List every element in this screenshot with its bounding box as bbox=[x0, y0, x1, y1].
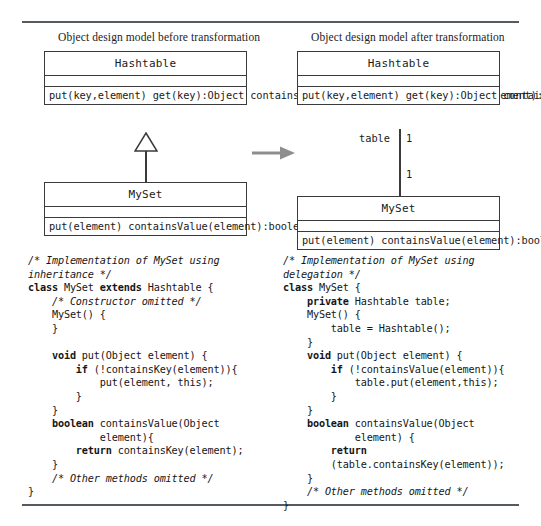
class-box-hashtable-before: Hashtable put(key,element) get(key):Obje… bbox=[44, 51, 247, 105]
code-token: MySet() { bbox=[28, 309, 106, 320]
code-token: } bbox=[283, 405, 313, 416]
code-token: containsValue(Object bbox=[355, 418, 475, 429]
code-token: } bbox=[28, 323, 58, 334]
code-token: table.put(element,this); bbox=[283, 377, 498, 388]
code-line: /* Implementation of MySet using bbox=[283, 254, 504, 268]
code-token: return bbox=[28, 445, 118, 456]
code-line: } bbox=[283, 390, 504, 404]
code-line: inheritance */ bbox=[28, 268, 243, 282]
code-token: class bbox=[28, 282, 64, 293]
code-token: if bbox=[283, 364, 349, 375]
code-line: void put(Object element) { bbox=[283, 349, 504, 363]
code-token: Hashtable table; bbox=[355, 296, 451, 307]
code-token: } bbox=[28, 486, 34, 497]
generalization-line bbox=[145, 151, 147, 182]
code-token: boolean bbox=[28, 418, 100, 429]
code-line: } bbox=[28, 390, 243, 404]
code-token: /* Implementation of MySet using bbox=[28, 255, 219, 266]
code-line: /* Constructor omitted */ bbox=[28, 295, 243, 309]
association-multiplicity-bottom: 1 bbox=[406, 168, 412, 180]
code-line: /* Implementation of MySet using bbox=[28, 254, 243, 268]
class-attributes-myset-before bbox=[45, 207, 246, 218]
code-token: extends bbox=[100, 282, 148, 293]
generalization-triangle-icon bbox=[134, 132, 158, 152]
association-line bbox=[399, 129, 401, 196]
code-token: /* Constructor omitted */ bbox=[28, 296, 202, 307]
code-line: put(element, this); bbox=[28, 376, 243, 390]
code-token: put(Object element) { bbox=[337, 350, 463, 361]
code-token: class bbox=[283, 282, 319, 293]
code-token: } bbox=[283, 500, 289, 511]
class-name-hashtable-after: Hashtable bbox=[298, 52, 499, 76]
code-line: if (!containsKey(element)){ bbox=[28, 363, 243, 377]
code-token: /* Other methods omitted */ bbox=[28, 473, 214, 484]
code-line: /* Other methods omitted */ bbox=[28, 472, 243, 486]
code-token bbox=[28, 337, 34, 348]
code-listing-inheritance: /* Implementation of MySet usinginherita… bbox=[28, 254, 243, 499]
code-line: boolean containsValue(Object bbox=[28, 417, 243, 431]
class-box-myset-before: MySet put(element) containsValue(element… bbox=[44, 182, 247, 236]
code-line: element){ bbox=[28, 431, 243, 445]
class-box-hashtable-after: Hashtable put(key,element) get(key):Obje… bbox=[297, 51, 500, 105]
code-line: } bbox=[28, 485, 243, 499]
code-token: inheritance */ bbox=[28, 269, 112, 280]
code-token: } bbox=[28, 405, 58, 416]
transformation-arrow-icon bbox=[252, 145, 296, 161]
association-role-label: table bbox=[359, 132, 390, 144]
class-attributes-hashtable-before bbox=[45, 76, 246, 87]
code-line: } bbox=[283, 472, 504, 486]
code-line: } bbox=[28, 404, 243, 418]
code-line: } bbox=[283, 336, 504, 350]
code-line: } bbox=[28, 322, 243, 336]
code-token: } bbox=[283, 391, 337, 402]
caption-before-transformation: Object design model before transformatio… bbox=[58, 31, 260, 43]
class-attributes-hashtable-after bbox=[298, 76, 499, 87]
caption-after-transformation: Object design model after transformation bbox=[311, 31, 505, 43]
code-token: } bbox=[28, 391, 82, 402]
code-line: class MySet extends Hashtable { bbox=[28, 281, 243, 295]
code-line bbox=[28, 336, 243, 350]
code-token: delegation */ bbox=[283, 269, 361, 280]
code-token: if bbox=[28, 364, 94, 375]
code-line: /* Other methods omitted */ bbox=[283, 485, 504, 499]
code-token: (table.containsKey(element)); bbox=[283, 459, 504, 470]
code-token: Hashtable { bbox=[148, 282, 214, 293]
code-token: } bbox=[28, 459, 58, 470]
code-token: MySet() { bbox=[283, 309, 361, 320]
class-box-myset-after: MySet put(element) containsValue(element… bbox=[297, 196, 500, 250]
code-line: return bbox=[283, 444, 504, 458]
code-token: void bbox=[283, 350, 337, 361]
code-line: class MySet { bbox=[283, 281, 504, 295]
class-operations-hashtable-before: put(key,element) get(key):Object contain… bbox=[45, 87, 246, 104]
association-multiplicity-top: 1 bbox=[406, 132, 412, 144]
code-token: (!containsKey(element)){ bbox=[94, 364, 238, 375]
code-token: containsValue(Object bbox=[100, 418, 220, 429]
code-token: } bbox=[283, 473, 313, 484]
code-line: table = Hashtable(); bbox=[283, 322, 504, 336]
code-line: (table.containsKey(element)); bbox=[283, 458, 504, 472]
code-line: table.put(element,this); bbox=[283, 376, 504, 390]
code-line: } bbox=[28, 458, 243, 472]
code-listing-delegation: /* Implementation of MySet usingdelegati… bbox=[283, 254, 504, 512]
code-token: /* Implementation of MySet using bbox=[283, 255, 474, 266]
code-token: } bbox=[283, 337, 313, 348]
code-token: table = Hashtable(); bbox=[283, 323, 451, 334]
class-name-hashtable-before: Hashtable bbox=[45, 52, 246, 76]
class-attributes-myset-after bbox=[298, 221, 499, 232]
code-token: boolean bbox=[283, 418, 355, 429]
figure-canvas: Object design model before transformatio… bbox=[0, 0, 541, 526]
code-token: element){ bbox=[28, 432, 154, 443]
code-line: element) { bbox=[283, 431, 504, 445]
code-line: if (!containsValue(element)){ bbox=[283, 363, 504, 377]
code-token: put(element, this); bbox=[28, 377, 214, 388]
code-token: return bbox=[283, 445, 367, 456]
code-token: MySet bbox=[64, 282, 100, 293]
code-line: void put(Object element) { bbox=[28, 349, 243, 363]
class-name-myset-before: MySet bbox=[45, 183, 246, 207]
code-token: private bbox=[283, 296, 355, 307]
code-line: } bbox=[283, 404, 504, 418]
code-token: put(Object element) { bbox=[82, 350, 208, 361]
code-token: element) { bbox=[283, 432, 415, 443]
code-token: /* Other methods omitted */ bbox=[283, 486, 469, 497]
code-line: delegation */ bbox=[283, 268, 504, 282]
